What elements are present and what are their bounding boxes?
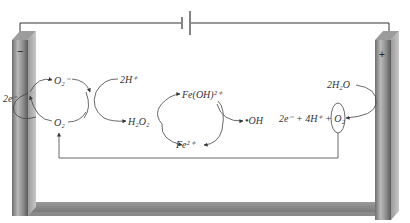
- electrons-label: 2e⁻: [3, 93, 18, 104]
- cathode-sign: −: [17, 45, 23, 57]
- ferrous-label: Fe²⁺: [175, 139, 196, 150]
- water-label: 2H₂O: [327, 79, 350, 90]
- circuit-wire: [20, 23, 389, 36]
- anode-sign: +: [379, 49, 385, 60]
- hydroxyl-radical-label: •OH: [245, 115, 264, 126]
- fenton-cycle: [158, 94, 244, 145]
- electro-fenton-diagram: − + 2e⁻ O₂⁻ O₂ 2H⁺ H₂O₂ Fe(OH)²⁺ Fe²⁺ •O…: [0, 0, 410, 223]
- superoxide-label: O₂⁻: [54, 75, 71, 86]
- tank-floor: [27, 202, 383, 216]
- battery-icon: [182, 11, 190, 35]
- anode-products-label: 2e⁻ + 4H⁺ + O₂: [279, 113, 345, 124]
- oxygen-cathode-label: O₂: [54, 117, 65, 128]
- anode-electrode: +: [375, 31, 399, 220]
- cathode-electrode: −: [12, 31, 36, 216]
- ferric-complex-label: Fe(OH)²⁺: [181, 89, 223, 101]
- hydrogen-peroxide-label: H₂O₂: [127, 116, 150, 127]
- protons-label: 2H⁺: [120, 74, 138, 85]
